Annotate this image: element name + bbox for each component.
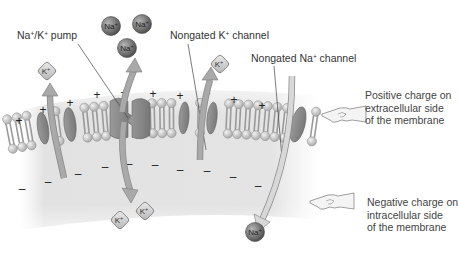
na-ion-charge: +	[146, 19, 149, 25]
plus-sign: +	[15, 114, 22, 128]
na-ion: Na+	[246, 223, 265, 242]
label-pump: Na+/K+ pump	[17, 29, 77, 41]
plus-sign: +	[258, 99, 265, 113]
na-ion-charge: +	[115, 21, 118, 27]
na-ion-charge: +	[259, 227, 262, 233]
lipid-head	[157, 98, 166, 107]
plus-sign: +	[93, 88, 100, 102]
minus-sign: –	[75, 167, 82, 181]
pump-na-out-arrow-head	[126, 58, 142, 72]
note-positive-charge: Positive charge on extracellular side of…	[365, 89, 451, 127]
label-k-channel: Nongated K+ channel	[170, 29, 269, 41]
lipid-head	[232, 129, 242, 139]
lipid-head	[167, 128, 176, 137]
k-ion-charge: +	[145, 206, 148, 212]
label-na-channel: Nongated Na+ channel	[251, 52, 356, 64]
na-ion: Na+	[118, 39, 137, 58]
lipid-tail	[226, 108, 227, 130]
minus-sign: –	[102, 160, 109, 174]
minus-sign: –	[230, 170, 237, 184]
k-ion-charge: +	[220, 59, 223, 65]
na-ion-charge: +	[131, 43, 134, 49]
plus-sign: +	[149, 87, 156, 101]
lipid-head	[244, 100, 254, 110]
minus-sign: –	[255, 179, 262, 193]
lipid-head	[223, 129, 233, 139]
na-ion: Na+	[133, 15, 152, 34]
minus-sign: –	[45, 175, 52, 189]
minus-sign: –	[204, 164, 211, 178]
minus-sign: –	[177, 163, 184, 177]
lipid-tail	[230, 108, 231, 130]
note-negative-charge: Negative charge on intracellular side of…	[367, 196, 458, 234]
lipid-head	[167, 98, 176, 107]
na-ion: Na+	[102, 17, 121, 36]
lipid-head	[158, 128, 167, 137]
minus-sign: –	[19, 182, 26, 196]
k-ion-charge: +	[120, 215, 123, 221]
k-ion-charge: +	[47, 66, 50, 72]
minus-sign: –	[152, 158, 159, 172]
plus-sign: +	[230, 93, 237, 107]
lipid-head	[242, 130, 252, 140]
membrane-diagram: +++++++++++–––––––––– Na+Na+Na+Na+K+K+K+…	[0, 0, 458, 257]
plus-sign: +	[176, 89, 183, 103]
lipid-tail	[154, 107, 155, 129]
plus-sign: +	[39, 103, 46, 117]
plus-sign: +	[66, 96, 73, 110]
